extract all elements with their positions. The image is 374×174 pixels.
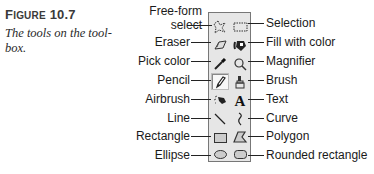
rounded-rectangle-icon [233,149,248,160]
tool-curve[interactable] [231,110,249,127]
leader-selection [248,23,264,24]
tool-text[interactable]: A [231,92,249,109]
leader-magnifier [248,61,264,62]
label-rounded-rectangle: Rounded rectangle [266,148,367,162]
label-eraser: Eraser [140,35,190,49]
selection-icon [233,21,248,33]
tool-ellipse[interactable] [211,146,229,163]
leader-free-form-select [190,25,212,26]
eyedropper-icon [213,57,227,71]
figure-label: FIGURE 10.7 [5,7,130,24]
toolbox-panel: A [208,12,251,162]
magnifier-icon [233,57,247,71]
label-ellipse: Ellipse [130,148,190,162]
label-magnifier: Magnifier [266,54,315,68]
brush-icon [234,75,246,89]
fill-bucket-icon [233,38,248,52]
label-free-form-select: Free-form select [148,4,202,32]
free-form-select-icon [213,20,227,34]
leader-polygon [248,136,264,137]
tool-selection[interactable] [231,18,249,35]
leader-pencil [191,80,211,81]
leader-rectangle [191,136,211,137]
tool-airbrush[interactable] [211,92,229,109]
label-fill-with-color: Fill with color [266,35,335,49]
figure-description-line2: box. [5,41,130,56]
leader-rounded-rectangle [248,155,264,156]
label-pencil: Pencil [140,73,190,87]
leader-fill-with-color [248,42,264,43]
label-pick-color: Pick color [120,54,190,68]
curve-icon [234,112,246,126]
tool-pencil[interactable] [211,73,229,90]
label-text: Text [266,92,288,106]
tool-fill-with-color[interactable] [231,36,249,53]
tool-line[interactable] [211,110,229,127]
ellipse-icon [213,149,228,160]
label-free-form-line1: Free-form [148,4,202,18]
leader-ellipse [191,155,211,156]
figure-prefix: F [5,7,13,22]
tool-magnifier[interactable] [231,55,249,72]
leader-airbrush [191,99,211,100]
tool-polygon[interactable] [231,129,249,146]
figure-caption: FIGURE 10.7 The tools on the tool- box. [5,7,130,56]
text-icon: A [235,94,246,108]
leader-pick-color [191,61,211,62]
tool-pick-color[interactable] [211,55,229,72]
leader-brush [248,80,264,81]
tool-free-form-select[interactable] [211,18,229,35]
label-rectangle: Rectangle [120,129,190,143]
figure-number: 10.7 [50,7,76,22]
label-curve: Curve [266,111,298,125]
tool-brush[interactable] [231,73,249,90]
leader-curve [248,118,264,119]
leader-eraser [191,42,211,43]
pencil-icon [214,75,226,89]
label-airbrush: Airbrush [130,92,190,106]
figure-smallcaps: IGURE [13,10,46,21]
tool-eraser[interactable] [211,36,229,53]
label-brush: Brush [266,73,297,87]
figure-description-line1: The tools on the tool- [5,26,130,41]
airbrush-icon [213,94,228,108]
label-selection: Selection [266,16,315,30]
tool-rounded-rectangle[interactable] [231,146,249,163]
leader-text [248,99,264,100]
polygon-icon [233,131,248,144]
tool-rectangle[interactable] [211,129,229,146]
label-line: Line [140,111,190,125]
rectangle-icon [213,132,228,144]
eraser-icon [213,39,228,51]
leader-line [191,118,211,119]
figure-description: The tools on the tool- box. [5,26,130,56]
label-polygon: Polygon [266,129,309,143]
line-icon [213,112,227,126]
